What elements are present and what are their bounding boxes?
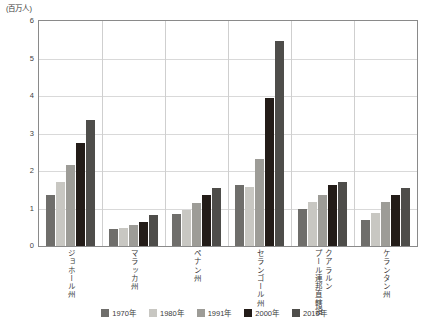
- bar-group: [165, 21, 228, 246]
- bar: [381, 202, 390, 246]
- legend-swatch-icon: [101, 309, 109, 317]
- bar: [338, 182, 347, 247]
- bar: [245, 187, 254, 246]
- bar-chart-figure: (百万人) 0123456 ジョホール州マラッカ州ペナン州セランゴール州クアラル…: [0, 0, 428, 326]
- x-axis-label: ペナン州: [165, 249, 228, 282]
- x-axis-label: マラッカ州: [102, 249, 165, 291]
- y-tick-label: 1: [4, 205, 34, 213]
- x-axis-label: セランゴール州: [228, 249, 291, 307]
- y-tick-label: 0: [4, 242, 34, 250]
- bar: [255, 159, 264, 246]
- legend-item: 1991年: [197, 309, 232, 318]
- bar: [66, 165, 75, 246]
- bar: [202, 195, 211, 246]
- legend-item: 2010年: [292, 309, 327, 318]
- x-axis-label-column: マラッカ州: [129, 249, 138, 291]
- legend-label: 2000年: [255, 309, 279, 318]
- legend-label: 1970年: [112, 309, 136, 318]
- bar-group: [354, 21, 417, 246]
- legend-swatch-icon: [149, 309, 157, 317]
- legend-label: 1991年: [208, 309, 232, 318]
- bar: [328, 185, 337, 246]
- legend-label: 1980年: [160, 309, 184, 318]
- y-axis-unit-label: (百万人): [6, 4, 32, 14]
- bar-group: [39, 21, 102, 246]
- bar: [86, 120, 95, 246]
- bar: [109, 229, 118, 246]
- bar: [149, 215, 158, 246]
- bar: [235, 185, 244, 246]
- y-tick-label: 2: [4, 167, 34, 175]
- bar: [56, 182, 65, 246]
- x-axis-category-labels: ジョホール州マラッカ州ペナン州セランゴール州クアラルンプール連邦直轄領ケランタン…: [39, 249, 417, 307]
- y-tick-label: 4: [4, 92, 34, 100]
- bars-layer: [39, 21, 417, 246]
- y-tick-label: 3: [4, 130, 34, 138]
- bar-group: [102, 21, 165, 246]
- bar: [139, 222, 148, 246]
- bar: [265, 98, 274, 246]
- bar: [172, 214, 181, 246]
- bar: [46, 195, 55, 246]
- bar: [371, 213, 380, 246]
- y-tick-label: 5: [4, 55, 34, 63]
- legend-item: 1970年: [101, 309, 136, 318]
- bar: [192, 203, 201, 246]
- chart-legend: 1970年1980年1991年2000年2010年: [0, 306, 428, 320]
- x-axis-label-column: ジョホール州: [66, 249, 75, 299]
- bar: [212, 188, 221, 247]
- bar: [318, 195, 327, 246]
- bar-group: [228, 21, 291, 246]
- y-tick-label: 6: [4, 17, 34, 25]
- legend-swatch-icon: [292, 309, 300, 317]
- legend-swatch-icon: [244, 309, 252, 317]
- legend-swatch-icon: [197, 309, 205, 317]
- bar: [275, 41, 284, 246]
- bar-group: [291, 21, 354, 246]
- bar: [391, 195, 400, 246]
- bar: [361, 220, 370, 246]
- bar: [182, 210, 191, 246]
- x-axis-label-column: ペナン州: [192, 249, 201, 282]
- x-axis-label-column: セランゴール州: [255, 249, 264, 307]
- legend-item: 1980年: [149, 309, 184, 318]
- legend-label: 2010年: [303, 309, 327, 318]
- bar: [76, 143, 85, 246]
- bar: [119, 228, 128, 246]
- x-axis-label: ジョホール州: [39, 249, 102, 299]
- y-axis: 0123456: [2, 20, 34, 247]
- bar: [401, 188, 410, 246]
- x-axis-label: ケランタン州: [354, 249, 417, 299]
- bar: [308, 202, 317, 246]
- x-axis-label-column: ケランタン州: [381, 249, 390, 299]
- bar: [129, 225, 138, 246]
- legend-item: 2000年: [244, 309, 279, 318]
- bar: [298, 209, 307, 247]
